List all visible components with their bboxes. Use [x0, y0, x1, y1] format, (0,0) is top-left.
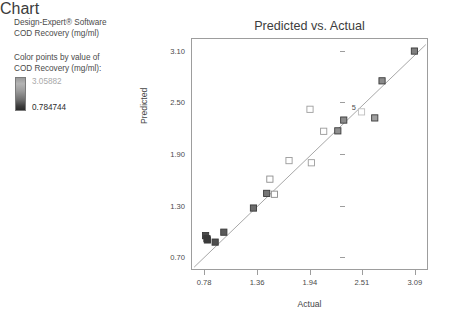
scatter-plot-canvas: 5	[192, 39, 429, 271]
x-tick-label: 3.09	[407, 278, 422, 287]
legend-high-value: 3.05882	[32, 76, 62, 87]
data-point[interactable]	[321, 128, 327, 134]
y-tick-mark	[340, 154, 345, 155]
reference-line	[194, 45, 426, 268]
data-point[interactable]	[221, 229, 227, 235]
data-point[interactable]	[372, 115, 378, 121]
data-point[interactable]	[341, 117, 347, 123]
data-point[interactable]	[411, 48, 417, 54]
y-tick-label: 0.70	[170, 253, 185, 262]
data-point[interactable]	[358, 109, 364, 115]
x-tick-label: 0.78	[197, 278, 212, 287]
x-tick-mark	[257, 270, 258, 275]
y-tick-mark	[340, 102, 345, 103]
x-tick-mark	[362, 270, 363, 275]
software-response: COD Recovery (mg/ml)	[14, 28, 107, 39]
software-info: Design-Expert® Software COD Recovery (mg…	[14, 17, 107, 40]
y-axis-title: Predicted	[139, 88, 149, 124]
x-tick-label: 1.94	[303, 278, 318, 287]
data-point[interactable]	[335, 128, 341, 134]
x-axis-title: Actual	[191, 299, 428, 309]
chart-title: Predicted vs. Actual	[191, 19, 428, 33]
data-point[interactable]	[271, 191, 277, 197]
data-point[interactable]	[379, 78, 385, 84]
x-axis-ticks: 0.781.361.942.513.09	[191, 270, 428, 294]
x-tick-mark	[204, 270, 205, 275]
y-tick-label: 3.10	[170, 46, 185, 55]
color-legend: Color points by value of COD Recovery (m…	[14, 52, 101, 117]
data-point[interactable]	[286, 158, 292, 164]
y-tick-mark	[340, 51, 345, 52]
x-tick-label: 1.36	[250, 278, 265, 287]
y-tick-label: 2.50	[170, 98, 185, 107]
x-tick-mark	[310, 270, 311, 275]
data-point[interactable]	[307, 106, 313, 112]
plot-area: 5	[191, 38, 428, 270]
y-tick-label: 1.90	[170, 150, 185, 159]
x-tick-mark	[415, 270, 416, 275]
data-point[interactable]	[204, 237, 210, 243]
legend-low-value: 0.784744	[32, 102, 66, 113]
legend-caption-line-1: Color points by value of	[14, 52, 101, 63]
data-point[interactable]	[264, 190, 270, 196]
data-point[interactable]	[212, 239, 218, 245]
data-point[interactable]	[308, 160, 314, 166]
data-point[interactable]	[250, 205, 256, 211]
y-tick-mark	[340, 257, 345, 258]
software-title: Design-Expert® Software	[14, 17, 107, 28]
y-axis-ticks: 0.701.301.902.503.10	[155, 38, 185, 270]
data-point[interactable]	[267, 176, 273, 182]
y-tick-mark	[340, 206, 345, 207]
point-label: 5	[352, 103, 356, 112]
y-tick-label: 1.30	[170, 201, 185, 210]
x-tick-label: 2.51	[354, 278, 369, 287]
legend-gradient-bar	[15, 77, 26, 111]
legend-caption-line-2: COD Recovery (mg/ml):	[14, 63, 101, 74]
